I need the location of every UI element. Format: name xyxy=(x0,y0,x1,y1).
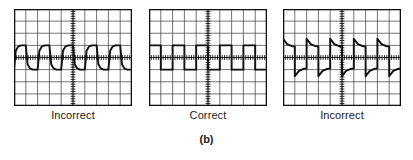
scope-screen-0 xyxy=(14,9,132,106)
scope-panel-group xyxy=(0,0,413,125)
scope-screen-1 xyxy=(149,9,267,106)
scope-panel-incorrect-under xyxy=(14,9,132,106)
scope-caption-1: Correct xyxy=(149,109,267,122)
scope-caption-2: Incorrect xyxy=(283,109,401,122)
scope-panel-correct xyxy=(149,9,267,106)
figure-part-label: (b) xyxy=(0,133,413,145)
figure-oscilloscope-probe-compensation: Incorrect Correct Incorrect (b) xyxy=(0,0,413,160)
scope-screen-2 xyxy=(283,9,401,106)
scope-panel-incorrect-over xyxy=(283,9,401,106)
scope-caption-0: Incorrect xyxy=(14,109,132,122)
